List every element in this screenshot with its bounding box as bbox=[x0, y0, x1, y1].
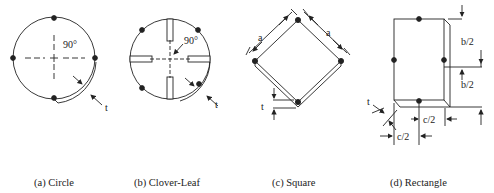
panel-clover-leaf bbox=[130, 19, 218, 106]
square-side-label-right: a bbox=[326, 27, 331, 38]
square-side-label-left: a bbox=[258, 32, 263, 43]
caption-rectangle: (d) Rectangle bbox=[390, 177, 447, 189]
rectangle-half-height-bottom-label: b/2 bbox=[461, 79, 474, 90]
caption-circle: (a) Circle bbox=[34, 177, 74, 189]
rectangle-half-height-top-label: b/2 bbox=[461, 36, 474, 47]
caption-clover-leaf: (b) Clover-Leaf bbox=[134, 177, 200, 189]
clover-thickness-label: t bbox=[215, 99, 218, 110]
circle-angle-label: 90° bbox=[63, 39, 77, 50]
caption-square: (c) Square bbox=[272, 177, 316, 189]
clover-angle-label: 90° bbox=[184, 35, 198, 46]
rectangle-half-width-bottom-label: c/2 bbox=[397, 131, 409, 142]
circle-thickness-label: t bbox=[105, 102, 108, 113]
panel-circle bbox=[11, 16, 102, 105]
rectangle-thickness-label: t bbox=[367, 96, 370, 107]
square-thickness-label: t bbox=[261, 101, 264, 112]
rectangle-half-width-top-label: c/2 bbox=[423, 114, 435, 125]
cross-section-figure: 90° t 90° t bbox=[0, 0, 494, 193]
